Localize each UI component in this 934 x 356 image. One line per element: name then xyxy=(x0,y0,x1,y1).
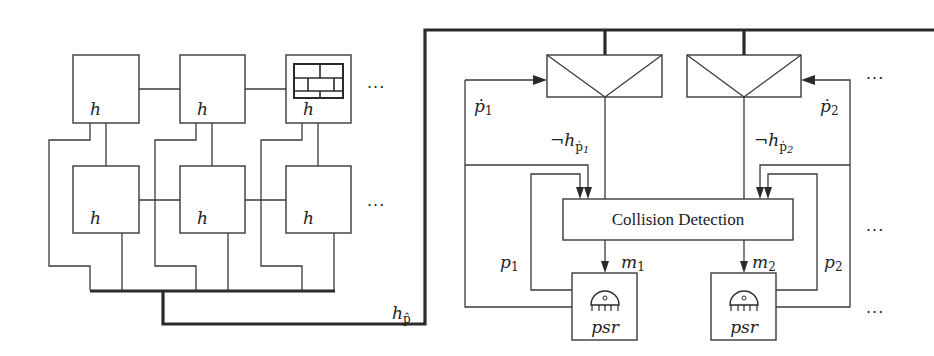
cell-label: h xyxy=(197,99,208,119)
arrow-left-icon xyxy=(801,75,815,85)
arrow-down-icon xyxy=(740,261,748,273)
m1-label: m1 xyxy=(621,252,645,274)
p1-label: p1 xyxy=(500,252,519,274)
neg-h-p1-label: ¬hṗ1 xyxy=(550,130,589,155)
arrow-down-icon xyxy=(601,261,609,273)
p2-label: p2 xyxy=(824,252,843,274)
grid-cell-r1c2: h xyxy=(286,166,351,233)
collision-detection-box: Collision Detection xyxy=(563,199,793,240)
arrow-right-icon xyxy=(533,75,547,85)
arrow-down-icon xyxy=(756,187,764,199)
diagram-canvas: h h h h h h ··· ··· h xyxy=(0,0,934,356)
arrow-down-icon xyxy=(584,187,592,199)
psr-unit-1: psr xyxy=(572,273,637,340)
grid-cell-r0c2-obstacle: h xyxy=(286,55,351,123)
ellipsis-sensors: ··· xyxy=(866,69,884,88)
grid-cell-r0c0: h xyxy=(73,55,139,123)
cell-label: h xyxy=(90,99,101,119)
sensor-1 xyxy=(547,55,662,97)
ellipsis-psr: ··· xyxy=(866,303,884,322)
neg-h-p2-label: ¬hṗ2 xyxy=(754,130,793,155)
cell-label: h xyxy=(90,208,101,228)
cell-label: h xyxy=(197,208,208,228)
psr-label: psr xyxy=(730,317,759,337)
cell-label: h xyxy=(303,99,314,119)
m2-label: m2 xyxy=(752,252,776,274)
grid-ellipsis-row1: ··· xyxy=(367,196,385,215)
arrow-down-icon xyxy=(764,187,772,199)
psr-unit-2: psr xyxy=(711,273,776,340)
psr-label: psr xyxy=(591,317,620,337)
grid-cell-r1c1: h xyxy=(180,166,245,233)
sensor-2 xyxy=(687,55,801,97)
ellipsis-collision: ··· xyxy=(866,221,884,240)
p-dot-2-label: ṗ2 xyxy=(820,96,839,118)
collision-detection-label: Collision Detection xyxy=(612,210,745,229)
arrow-down-icon xyxy=(576,187,584,199)
cell-label: h xyxy=(303,208,314,228)
grid-cell-r1c0: h xyxy=(73,166,139,233)
grid-ellipsis-row0: ··· xyxy=(367,78,385,97)
bus-label: hp̂ xyxy=(392,303,411,326)
p-dot-1-label: ṗ1 xyxy=(474,96,493,118)
grid-cell-r0c1: h xyxy=(180,55,245,123)
